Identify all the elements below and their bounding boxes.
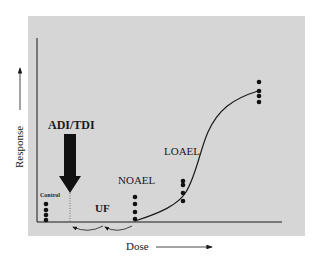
high-dose-points [257, 80, 262, 105]
control-label: Control [40, 192, 60, 198]
adi-tdi-label: ADI/TDI [48, 118, 95, 133]
uf-label: UF [95, 202, 110, 214]
loael-points [181, 179, 186, 204]
noael-label: NOAEL [118, 174, 155, 186]
control-points [44, 202, 49, 223]
adi-tdi-arrow-icon [59, 134, 81, 193]
loael-label: LOAEL [164, 145, 200, 157]
x-axis-label: Dose [126, 240, 149, 252]
y-axis-label: Response [13, 122, 25, 172]
noael-points [133, 195, 138, 222]
uf-arrows-icon [73, 226, 132, 230]
